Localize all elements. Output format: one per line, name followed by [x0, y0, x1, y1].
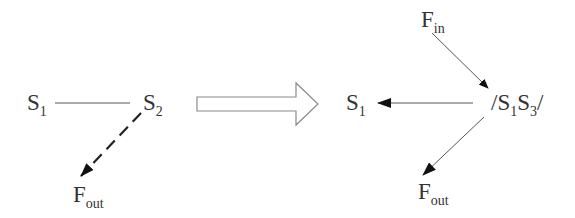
left-s1-sub: 1: [40, 104, 47, 119]
left-s2-main: S: [143, 90, 156, 115]
merged-suffix: /: [537, 90, 543, 115]
right-output-fout: Fout: [418, 180, 449, 208]
edge-merged-fout: [423, 117, 484, 175]
right-fin-main: F: [421, 7, 434, 32]
left-node-s2: S2: [143, 91, 163, 119]
right-merged-node: /S1S3/: [491, 91, 543, 119]
edge-s2-fout-dashed: [81, 113, 141, 176]
left-node-s1: S1: [27, 91, 47, 119]
right-fout-sub: out: [431, 193, 449, 208]
right-input-fin: Fin: [421, 8, 445, 36]
merged-b-sub: 3: [530, 104, 537, 119]
right-s1-sub: 1: [359, 104, 366, 119]
left-s1-main: S: [27, 90, 40, 115]
merged-a-main: S: [497, 90, 510, 115]
right-fout-main: F: [418, 179, 431, 204]
edge-fin-merged: [432, 33, 488, 88]
right-s1-main: S: [346, 90, 359, 115]
right-node-s1: S1: [346, 91, 366, 119]
merged-b-main: S: [517, 90, 530, 115]
left-fout-main: F: [73, 182, 86, 207]
transition-block-arrow-icon: [197, 83, 318, 125]
diagram-canvas: S1 S2 Fout Fin S1 /S1S3/ Fout: [0, 0, 575, 218]
right-fin-sub: in: [434, 21, 445, 36]
left-s2-sub: 2: [156, 104, 163, 119]
left-output-fout: Fout: [73, 183, 104, 211]
left-fout-sub: out: [86, 196, 104, 211]
